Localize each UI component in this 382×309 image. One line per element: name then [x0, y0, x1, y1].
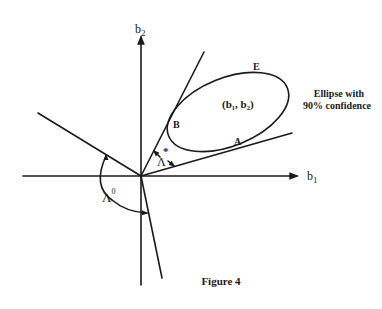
point-E-label: E — [253, 61, 260, 72]
point-B-label: B — [173, 119, 180, 130]
ellipse-annotation-line2: 90% confidence — [303, 100, 372, 111]
b2-axis-label: b2 — [135, 22, 146, 38]
lambda-star-label: Λ — [157, 155, 166, 169]
ellipse-annotation-line1: Ellipse with — [314, 88, 365, 99]
lambda-star-arrow-lower — [168, 161, 174, 166]
estimate-label: (b₁, b₂) — [222, 98, 254, 111]
figure-caption: Figure 4 — [201, 275, 241, 287]
upper-left-line — [38, 113, 141, 176]
b1-axis-label: b1 — [307, 169, 318, 185]
lambda-star-mark: * — [163, 145, 169, 157]
lower-line — [141, 176, 162, 278]
figure-4-diagram: b2 b1 E B A (b₁, b₂) Ellipse with 90% co… — [0, 0, 382, 309]
point-A-label: A — [234, 136, 242, 147]
lambda-zero-label: Λ0 — [102, 187, 115, 205]
